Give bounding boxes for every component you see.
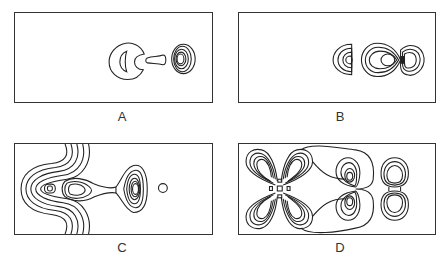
contour-plot-a xyxy=(15,13,212,102)
contour-plot-d xyxy=(239,144,435,234)
panel-b-label: B xyxy=(325,109,355,124)
panel-d-frame xyxy=(238,143,436,235)
panel-a-frame xyxy=(14,12,213,103)
panel-a-label: A xyxy=(107,109,137,124)
panel-c-frame xyxy=(14,143,213,235)
panel-d-label: D xyxy=(325,240,355,255)
panel-c-label: C xyxy=(107,240,137,255)
panel-b-frame xyxy=(238,12,436,103)
contour-plot-b xyxy=(239,13,435,102)
contour-plot-c xyxy=(15,144,212,234)
